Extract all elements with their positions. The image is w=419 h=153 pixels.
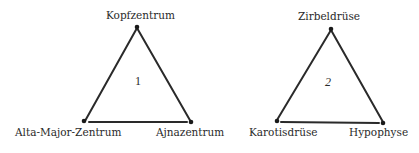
triangle-2-top-dot (329, 27, 334, 32)
triangle-1-right-dot (189, 120, 194, 125)
triangle-2-number: 2 (325, 76, 331, 88)
label-karotisdruese: Karotisdrüse (249, 127, 318, 138)
triangle-1-edge-right (137, 28, 191, 122)
label-hypophyse: Hypophyse (349, 127, 408, 138)
triangle-2-edge-left (277, 30, 331, 120)
triangle-1-edge-left (85, 28, 137, 121)
label-ajnazentrum: Ajnazentrum (156, 127, 224, 138)
triangle-2-right-dot (381, 121, 386, 126)
triangle-2-edge-right (331, 30, 383, 122)
triangle-2-edge-bottom (281, 122, 379, 123)
triangle-1-top-dot (135, 25, 140, 30)
label-kopfzentrum: Kopfzentrum (106, 10, 175, 21)
label-zirbeldruese: Zirbeldrüse (298, 11, 360, 22)
triangle-1-left-dot (82, 119, 87, 124)
label-alta-major-zentrum: Alta-Major-Zentrum (15, 127, 121, 138)
triangle-2-left-dot (275, 119, 280, 124)
triangle-1-number: 1 (135, 75, 141, 87)
